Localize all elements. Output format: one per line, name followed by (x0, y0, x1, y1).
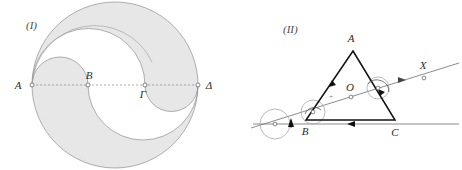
label-B: B (86, 69, 93, 81)
transversal-line-OX (251, 63, 459, 128)
label-O: O (346, 81, 354, 93)
label-C2: C (391, 126, 399, 138)
point-on-AB-marker (311, 110, 315, 114)
point-rotation-center-marker (273, 122, 277, 126)
panel-one: (I) A B Γ Δ (0, 0, 231, 170)
point-B-marker (86, 83, 90, 87)
point-Gamma-marker (143, 83, 147, 87)
panel-two-canvas: + (II) A B C O X (231, 0, 462, 170)
panel-two-tag: (II) (283, 23, 298, 36)
label-B2: B (302, 125, 309, 137)
label-A2: A (347, 32, 355, 44)
arrowhead-edge-BC (347, 121, 355, 127)
label-A: A (14, 79, 22, 91)
point-on-AC-marker (376, 86, 380, 90)
panel-one-canvas: (I) A B Γ Δ (0, 0, 231, 170)
arrowhead-transversal (398, 77, 406, 83)
point-O-marker (349, 95, 353, 99)
panel-two: + (II) A B C O X (231, 0, 462, 170)
point-X-marker (422, 76, 426, 80)
label-X: X (419, 59, 428, 71)
point-Delta-marker (196, 83, 200, 87)
panel-one-tag: (I) (26, 19, 37, 32)
label-Gamma: Γ (139, 88, 147, 100)
point-A-marker (30, 83, 34, 87)
label-Delta: Δ (205, 79, 212, 91)
plus-mark: + (329, 93, 333, 101)
figure-root: (I) A B Γ Δ (0, 0, 462, 170)
